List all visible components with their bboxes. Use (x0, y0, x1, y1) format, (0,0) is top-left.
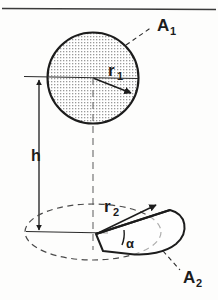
radius2-label: r (104, 197, 111, 216)
diagram-canvas: A 1 r 1 h r 2 α A 2 (0, 0, 218, 300)
angle-alpha-label: α (126, 236, 134, 251)
height-label: h (31, 147, 41, 164)
lower-sector-outline (96, 210, 185, 255)
area2-label: A (183, 268, 195, 287)
area1-label: A (157, 16, 169, 35)
radius1-subscript: 1 (117, 70, 123, 82)
lower-reference-line (26, 232, 108, 234)
area1-subscript: 1 (170, 25, 176, 37)
area2-subscript: 2 (196, 277, 202, 289)
radius1-label: r (108, 61, 115, 80)
figure-container: A 1 r 1 h r 2 α A 2 (0, 0, 218, 300)
radius2-subscript: 2 (113, 206, 119, 218)
area2-leader-line (163, 251, 180, 270)
top-rule (2, 9, 216, 10)
area1-leader-line (126, 27, 152, 45)
